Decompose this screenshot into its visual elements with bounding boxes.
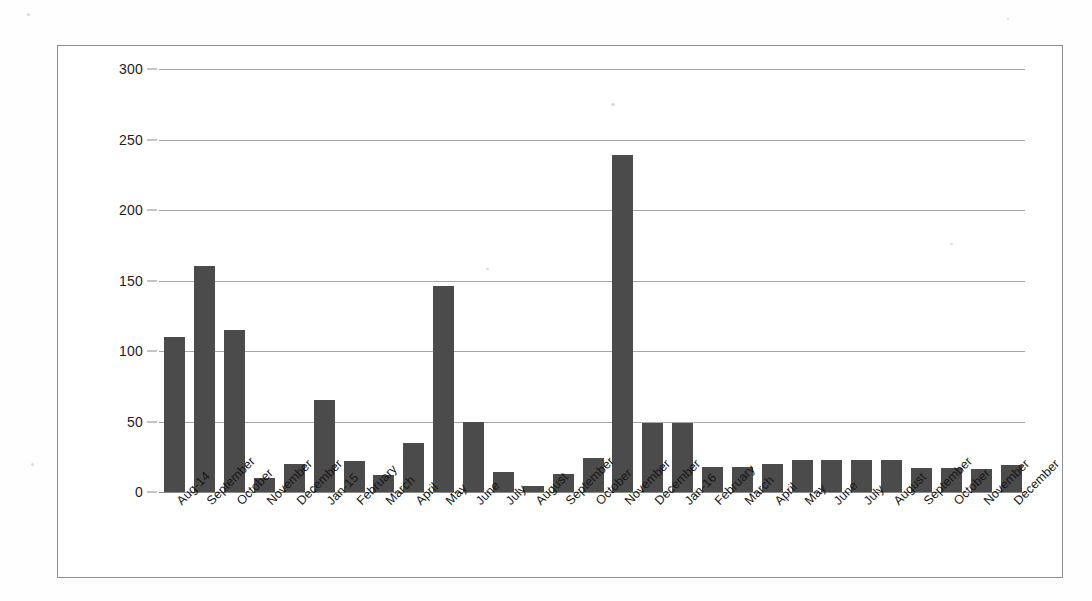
bar-series [159,69,1025,492]
y-axis-tick-label: 50 [127,414,143,430]
scan-speckle [950,243,953,245]
x-axis-labels: Aug-14SeptemberOctoberNovemberDecemberJa… [159,498,1025,576]
bar [463,422,484,493]
y-axis-tick-label: 150 [119,273,143,289]
scan-speckle [611,103,615,106]
y-tick-100 [147,351,157,352]
bar [433,286,454,492]
chart-page: 050100150200250300 Aug-14SeptemberOctobe… [0,0,1092,601]
bar [881,460,902,492]
y-tick-0 [147,492,157,493]
y-axis-tick-label: 300 [119,61,143,77]
y-axis-tick-label: 250 [119,132,143,148]
y-axis-tick-label: 100 [119,343,143,359]
y-axis-tick-label: 0 [135,484,143,500]
y-tick-300 [147,69,157,70]
scan-speckle [31,463,34,466]
bar [164,337,185,492]
scan-speckle [1007,18,1009,20]
y-tick-150 [147,280,157,281]
plot-area: 050100150200250300 [159,69,1025,492]
y-tick-200 [147,210,157,211]
y-axis-tick-label: 200 [119,202,143,218]
scan-speckle [486,268,489,270]
scan-speckle [27,13,30,16]
bar [612,155,633,492]
y-tick-50 [147,421,157,422]
bar [194,266,215,492]
y-tick-250 [147,139,157,140]
chart-frame: 050100150200250300 Aug-14SeptemberOctobe… [57,45,1063,578]
